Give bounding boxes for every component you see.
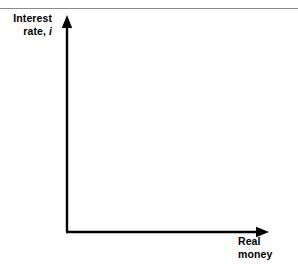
x-axis-label-line-2: money <box>238 248 296 261</box>
x-axis-label: Real money <box>238 235 296 260</box>
x-axis-label-line-1: Real <box>238 235 296 248</box>
y-axis-arrowhead-icon <box>62 15 72 28</box>
y-axis-label-prefix: rate, <box>23 25 49 37</box>
y-axis-label: Interest rate, i <box>0 12 52 37</box>
y-axis-label-line-2: rate, i <box>0 25 52 38</box>
y-axis-label-line-1: Interest <box>0 12 52 25</box>
y-axis-label-symbol: i <box>49 25 52 37</box>
axes-drawing <box>0 0 298 267</box>
money-market-axes-figure: Interest rate, i Real money <box>0 0 298 267</box>
